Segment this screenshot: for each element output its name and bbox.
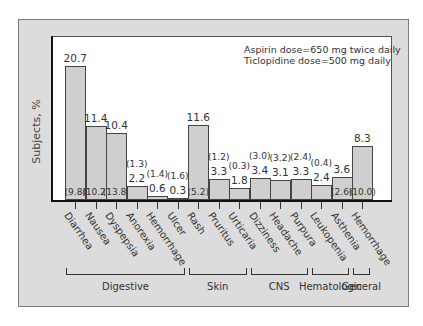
group-bracket [66, 268, 185, 275]
ticlopidine-value: 20.7 [60, 52, 90, 64]
bar-urticaria [229, 188, 250, 200]
x-tick [137, 202, 138, 209]
group-bracket [251, 268, 309, 275]
group-label-general: General [333, 281, 390, 292]
x-tick [260, 202, 261, 209]
ticlopidine-value: 11.6 [183, 111, 213, 123]
ticlopidine-value: 8.3 [347, 132, 377, 144]
bar-diarrhea [65, 66, 86, 200]
x-tick [342, 202, 343, 209]
x-tick [362, 202, 363, 209]
group-bracket [353, 268, 370, 275]
dose-annotation: Aspirin dose=650 mg twice daily Ticlopid… [244, 44, 401, 66]
y-axis [51, 36, 53, 202]
aspirin-value: (1.2) [204, 152, 234, 162]
x-tick [321, 202, 322, 209]
x-tick [219, 202, 220, 209]
aspirin-value: (10.0) [347, 187, 377, 197]
x-tick [301, 202, 302, 209]
bar-dizziness [250, 178, 271, 200]
group-bracket [189, 268, 247, 275]
x-tick [96, 202, 97, 209]
x-tick [198, 202, 199, 209]
x-tick [239, 202, 240, 209]
x-tick [157, 202, 158, 209]
x-tick [116, 202, 117, 209]
ticlopidine-value: 10.4 [101, 119, 131, 131]
x-tick [280, 202, 281, 209]
aspirin-value: (1.3) [122, 159, 152, 169]
x-tick [75, 202, 76, 209]
aspirin-dose-note: Aspirin dose=650 mg twice daily [244, 44, 401, 55]
y-axis-label: Subjects, % [30, 92, 43, 172]
x-tick [178, 202, 179, 209]
group-bracket [312, 268, 349, 275]
bar-headache [270, 180, 291, 200]
ticlopidine-dose-note: Ticlopidine dose=500 mg daily [244, 55, 401, 66]
